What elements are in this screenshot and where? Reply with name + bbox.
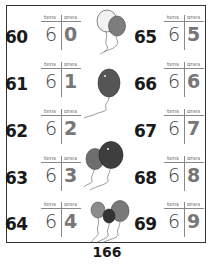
ones-digit: 4 (64, 210, 77, 232)
ones-header: ones (187, 14, 200, 20)
ones-header: ones (187, 155, 200, 161)
column-divider (184, 62, 185, 97)
tens-header: tens (167, 108, 179, 114)
ones-digit: 8 (187, 164, 200, 186)
tens-ones-chart: tens ones 6 1 (41, 61, 81, 97)
column-divider (184, 15, 185, 50)
tens-ones-chart: tens ones 6 6 (164, 61, 204, 97)
column-divider (61, 202, 62, 237)
number-label: 61 (5, 74, 28, 94)
tens-header: tens (167, 155, 179, 161)
number-label: 63 (5, 168, 28, 188)
ones-header: ones (64, 14, 77, 20)
balloons-trio-icon (88, 200, 138, 244)
balloons-pair-icon (92, 8, 132, 56)
balloons-pair-dark-icon (80, 140, 130, 195)
number-label: 60 (5, 27, 28, 47)
tens-header: tens (44, 14, 56, 20)
column-divider (184, 109, 185, 144)
column-divider (61, 62, 62, 97)
tens-header: tens (44, 61, 56, 67)
ones-header: ones (64, 155, 77, 161)
tens-digit: 6 (168, 70, 180, 92)
tens-ones-chart: tens ones 6 7 (164, 108, 204, 144)
balloon-single-icon (82, 66, 122, 120)
ones-header: ones (64, 108, 77, 114)
ones-header: ones (64, 201, 77, 207)
ones-digit: 6 (187, 70, 200, 92)
tens-ones-chart: tens ones 6 2 (41, 108, 81, 144)
number-label: 65 (134, 27, 157, 47)
column-divider (61, 15, 62, 50)
tens-header: tens (167, 61, 179, 67)
tens-digit: 6 (168, 210, 180, 232)
tens-digit: 6 (45, 210, 57, 232)
number-row-60: 60 tens ones 6 0 (0, 14, 107, 54)
ones-digit: 2 (64, 117, 77, 139)
tens-ones-chart: tens ones 6 0 (41, 14, 81, 50)
number-label: 62 (5, 121, 28, 141)
column-divider (61, 156, 62, 191)
tens-digit: 6 (45, 117, 57, 139)
ones-digit: 1 (64, 70, 77, 92)
number-label: 68 (134, 168, 157, 188)
ones-header: ones (187, 201, 200, 207)
ones-header: ones (187, 61, 200, 67)
tens-digit: 6 (45, 70, 57, 92)
tens-header: tens (167, 14, 179, 20)
column-divider (184, 202, 185, 237)
column-divider (184, 156, 185, 191)
ones-digit: 5 (187, 23, 200, 45)
tens-header: tens (167, 201, 179, 207)
ones-digit: 3 (64, 164, 77, 186)
tens-header: tens (44, 108, 56, 114)
tens-ones-chart: tens ones 6 9 (164, 201, 204, 237)
tens-digit: 6 (168, 117, 180, 139)
number-label: 67 (134, 121, 157, 141)
tens-header: tens (44, 155, 56, 161)
ones-header: ones (187, 108, 200, 114)
tens-ones-chart: tens ones 6 8 (164, 155, 204, 191)
tens-digit: 6 (168, 164, 180, 186)
ones-header: ones (64, 61, 77, 67)
number-row-66: 66 tens ones 6 6 (107, 61, 214, 101)
tens-header: tens (44, 201, 56, 207)
page-number: 166 (0, 244, 214, 260)
tens-digit: 6 (45, 164, 57, 186)
number-label: 64 (5, 214, 28, 234)
tens-ones-chart: tens ones 6 4 (41, 201, 81, 237)
ones-digit: 9 (187, 210, 200, 232)
tens-ones-chart: tens ones 6 3 (41, 155, 81, 191)
number-label: 66 (134, 74, 157, 94)
tens-digit: 6 (168, 23, 180, 45)
tens-digit: 6 (45, 23, 57, 45)
ones-digit: 7 (187, 117, 200, 139)
column-divider (61, 109, 62, 144)
ones-digit: 0 (64, 23, 77, 45)
tens-ones-chart: tens ones 6 5 (164, 14, 204, 50)
